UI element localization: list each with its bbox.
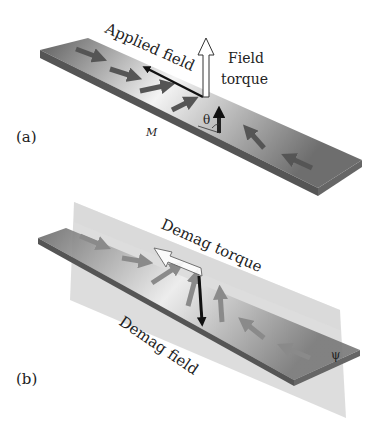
panel-a: Applied field Field torque θ M (a) [16,19,362,196]
field-torque-label-line1: Field [228,50,264,66]
diagram-canvas: Applied field Field torque θ M (a) Demag… [0,0,384,438]
magnetic-strip-a [40,38,362,188]
panel-b: Demag torque Demag field ψ (b) [16,202,360,418]
panel-a-tag: (a) [16,128,37,146]
psi-symbol: ψ [331,348,340,362]
panel-b-tag: (b) [16,370,37,388]
theta-symbol: θ [203,113,210,127]
field-torque-label-line2: torque [221,71,268,87]
m-symbol: M [145,126,158,139]
